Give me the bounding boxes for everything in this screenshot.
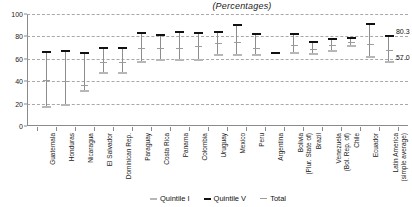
quintile-1-marker bbox=[214, 54, 223, 56]
x-category-label-line: Colombia bbox=[201, 133, 208, 160]
x-category-label-line: Peru bbox=[258, 133, 265, 147]
chart-title: (Percentages) bbox=[0, 1, 412, 11]
x-category-label: Panama bbox=[182, 133, 190, 157]
quintile-5-marker bbox=[80, 52, 89, 54]
legend-label: Quintile V bbox=[214, 194, 247, 203]
x-category-label: Ecuador bbox=[372, 133, 380, 157]
quintile-1-marker bbox=[61, 104, 70, 106]
quintile-1-marker bbox=[385, 61, 394, 63]
legend-label: Total bbox=[270, 194, 286, 203]
legend-item[interactable]: Total bbox=[260, 194, 286, 203]
range-line bbox=[236, 25, 237, 55]
total-marker bbox=[348, 42, 355, 43]
x-category-label: Chile bbox=[353, 133, 361, 148]
x-tick-mark bbox=[227, 127, 228, 131]
x-tick-mark bbox=[189, 127, 190, 131]
y-tick-label: 40 bbox=[15, 78, 23, 85]
total-marker bbox=[291, 45, 298, 46]
x-tick-mark bbox=[284, 127, 285, 131]
x-category-label-line: Guatemala bbox=[49, 133, 56, 165]
x-category-label: Guatemala bbox=[49, 133, 57, 165]
x-tick-mark bbox=[151, 127, 152, 131]
x-tick-mark bbox=[360, 127, 361, 131]
quintile-1-marker bbox=[366, 56, 375, 58]
x-tick-mark bbox=[208, 127, 209, 131]
x-category-label-line: (Plur. State of) bbox=[305, 133, 313, 175]
x-category-label-line: Ecuador bbox=[372, 133, 379, 157]
total-marker bbox=[386, 50, 393, 51]
quintile-5-marker bbox=[99, 47, 108, 49]
total-marker bbox=[62, 81, 69, 82]
x-category-label: Colombia bbox=[201, 133, 209, 160]
x-category-label: Bolivia(Plur. State of) bbox=[297, 133, 312, 175]
chart-legend: Quintile IQuintile VTotal bbox=[0, 194, 412, 203]
legend-swatch-icon bbox=[260, 198, 267, 199]
x-category-label: Peru bbox=[258, 133, 266, 147]
quintile-5-marker bbox=[194, 32, 203, 34]
y-tick-label: 20 bbox=[15, 100, 23, 107]
total-marker bbox=[100, 62, 107, 63]
x-tick-mark bbox=[94, 127, 95, 131]
x-category-label-line: Panama bbox=[182, 133, 189, 157]
range-line bbox=[65, 51, 66, 105]
x-category-label-line: Bolivia bbox=[297, 133, 304, 152]
quintile-1-marker bbox=[290, 52, 299, 54]
quintile-5-marker bbox=[366, 23, 375, 25]
x-category-label-line: Uruguay bbox=[220, 133, 227, 158]
quintile-1-marker bbox=[175, 59, 184, 61]
y-tick-label: 80 bbox=[15, 33, 23, 40]
quintile-5-marker bbox=[233, 24, 242, 26]
quintile-5-marker bbox=[290, 33, 299, 35]
x-category-label-line: Latin America bbox=[392, 133, 399, 172]
quintile-5-marker bbox=[156, 34, 165, 36]
quintile-1-marker bbox=[328, 50, 337, 52]
total-marker bbox=[215, 43, 222, 44]
total-marker bbox=[119, 62, 126, 63]
x-tick-mark bbox=[170, 127, 171, 131]
x-tick-mark bbox=[303, 127, 304, 131]
range-line bbox=[369, 24, 370, 56]
y-tick-label: 100 bbox=[11, 11, 23, 18]
x-tick-mark bbox=[265, 127, 266, 131]
quintile-5-marker bbox=[309, 41, 318, 43]
x-category-label: El Salvador bbox=[106, 133, 114, 166]
total-marker bbox=[310, 49, 317, 50]
quintile-5-marker bbox=[214, 31, 223, 33]
quintile-1-marker bbox=[137, 61, 146, 63]
x-category-label-line: Venezuela bbox=[335, 133, 342, 163]
x-tick-mark bbox=[113, 127, 114, 131]
range-line bbox=[179, 32, 180, 60]
quintile-5-marker bbox=[328, 38, 337, 40]
total-marker bbox=[157, 48, 164, 49]
x-category-label-line: Paraguay bbox=[144, 133, 151, 161]
x-category-label-line: Costa Rica bbox=[163, 133, 170, 165]
x-category-label-line: Dominican Rep. bbox=[125, 133, 132, 179]
x-tick-mark bbox=[398, 127, 399, 131]
legend-item[interactable]: Quintile I bbox=[150, 194, 190, 203]
quintile-5-marker bbox=[175, 31, 184, 33]
total-marker bbox=[234, 42, 241, 43]
legend-swatch-icon bbox=[204, 198, 211, 200]
quintile-5-marker bbox=[118, 47, 127, 49]
quintile-5-marker bbox=[42, 51, 51, 53]
value-annotation: 57.0 bbox=[396, 54, 410, 61]
x-category-label: Mexico bbox=[239, 133, 247, 154]
range-line bbox=[293, 34, 294, 53]
x-tick-mark bbox=[379, 127, 380, 131]
plot-area: 020406080100 80.357.0 bbox=[27, 14, 408, 126]
x-tick-mark bbox=[246, 127, 247, 131]
value-annotation: 80.3 bbox=[396, 28, 410, 35]
total-marker bbox=[329, 45, 336, 46]
x-category-label-line: Nicaragua bbox=[87, 133, 94, 163]
x-tick-mark bbox=[132, 127, 133, 131]
range-line bbox=[103, 48, 104, 74]
x-tick-mark bbox=[75, 127, 76, 131]
x-category-label-line: Honduras bbox=[68, 133, 75, 161]
x-category-label: Argentina bbox=[277, 133, 285, 161]
x-category-label: Brazil bbox=[315, 133, 323, 149]
quintile-5-marker bbox=[347, 37, 356, 39]
x-category-label: Paraguay bbox=[144, 133, 152, 161]
total-marker bbox=[176, 48, 183, 49]
total-marker bbox=[81, 85, 88, 86]
legend-item[interactable]: Quintile V bbox=[204, 194, 247, 203]
